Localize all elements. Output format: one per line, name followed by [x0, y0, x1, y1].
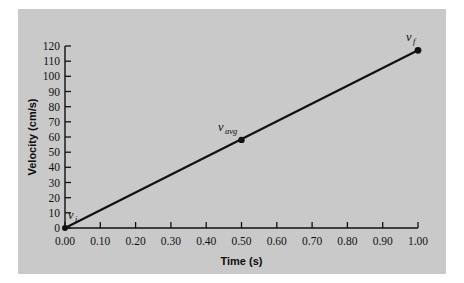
annotation-vavg-subscript: avg	[225, 126, 237, 136]
x-tick-label: 0.10	[90, 235, 110, 247]
y-tick-label: 20	[49, 192, 61, 204]
x-tick-label: 0.00	[55, 235, 75, 247]
x-tick-marks	[65, 222, 418, 228]
annotation-vf-symbol: v	[406, 30, 412, 44]
x-tick-label: 0.40	[196, 235, 216, 247]
y-tick-label: 50	[49, 146, 61, 158]
velocity-time-plot: 120 110 100 90 80 70 60 50 40 30 20 10 0	[0, 0, 464, 283]
y-tick-label: 120	[43, 40, 61, 52]
x-tick-label: 0.90	[373, 235, 393, 247]
x-tick-labels: 0.00 0.10 0.20 0.30 0.40 0.50 0.60 0.70 …	[55, 235, 428, 247]
x-tick-label: 0.60	[267, 235, 287, 247]
annotation-vf-subscript: f	[413, 36, 417, 46]
y-tick-label: 70	[49, 116, 61, 128]
annotation-vavg: v avg	[218, 120, 237, 136]
y-tick-label: 10	[49, 207, 61, 219]
x-tick-label: 0.30	[161, 235, 181, 247]
y-tick-label: 40	[49, 161, 61, 173]
annotation-vavg-symbol: v	[218, 120, 224, 134]
annotation-vi: v i	[68, 208, 78, 224]
data-point-marker-vf	[415, 47, 422, 54]
y-tick-label: 60	[49, 131, 61, 143]
x-tick-label: 1.00	[408, 235, 428, 247]
y-tick-marks	[65, 46, 71, 228]
y-tick-label: 100	[43, 70, 61, 82]
x-tick-label: 0.80	[337, 235, 357, 247]
y-axis-title: Velocity (cm/s)	[26, 98, 38, 175]
x-axis-title: Time (s)	[221, 255, 263, 267]
data-point-marker-vavg	[238, 137, 244, 143]
x-tick-label: 0.70	[302, 235, 322, 247]
data-point-marker-vi	[62, 225, 68, 231]
annotation-vf: v f	[406, 30, 417, 46]
chart-figure: 120 110 100 90 80 70 60 50 40 30 20 10 0	[0, 0, 464, 283]
x-tick-label: 0.50	[231, 235, 251, 247]
annotation-vi-symbol: v	[68, 208, 74, 222]
y-tick-label: 110	[43, 55, 60, 67]
y-tick-label: 80	[49, 101, 61, 113]
y-tick-labels: 120 110 100 90 80 70 60 50 40 30 20 10 0	[43, 40, 61, 234]
x-tick-label: 0.20	[126, 235, 146, 247]
y-tick-label: 0	[54, 222, 60, 234]
y-tick-label: 30	[49, 177, 61, 189]
y-tick-label: 90	[49, 86, 61, 98]
